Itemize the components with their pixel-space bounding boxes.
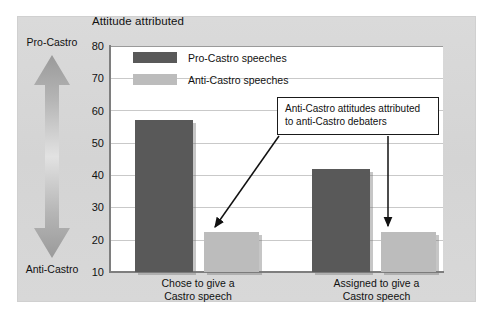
bidirectional-arrow-icon bbox=[34, 55, 70, 258]
y-tick-50: 50 bbox=[78, 137, 104, 149]
bar-fill bbox=[312, 169, 370, 272]
category-label-assigned-line1: Assigned to give a bbox=[304, 277, 449, 290]
legend-item-anti-castro: Anti-Castro speeches bbox=[133, 71, 288, 88]
y-tick-20: 20 bbox=[78, 234, 104, 246]
gridline-80 bbox=[110, 46, 443, 47]
y-tick-10: 10 bbox=[78, 266, 104, 278]
bar-fill bbox=[204, 232, 259, 272]
bar-assigned-pro-castro bbox=[312, 169, 370, 272]
bar-fill bbox=[135, 120, 193, 272]
category-label-assigned-line2: Castro speech bbox=[304, 290, 449, 303]
legend-label-pro-castro: Pro-Castro speeches bbox=[188, 52, 287, 64]
y-tick-70: 70 bbox=[78, 72, 104, 84]
chart-title: Attitude attributed bbox=[92, 15, 184, 27]
annotation-callout-line1: Anti-Castro attitudes attributed bbox=[285, 103, 431, 116]
legend-swatch-pro-castro bbox=[133, 52, 177, 63]
bar-chose-pro-castro bbox=[135, 120, 193, 272]
y-tick-80: 80 bbox=[78, 40, 104, 52]
annotation-callout-line2: to anti-Castro debaters bbox=[285, 116, 431, 129]
legend-label-anti-castro: Anti-Castro speeches bbox=[188, 74, 288, 86]
legend-item-pro-castro: Pro-Castro speeches bbox=[133, 49, 288, 66]
chart-figure: Attitude attributed Pro-Castro Anti-Cast… bbox=[0, 0, 489, 318]
category-label-chose: Chose to give a Castro speech bbox=[128, 277, 268, 303]
y-tick-60: 60 bbox=[78, 105, 104, 117]
bar-fill bbox=[381, 232, 436, 272]
legend: Pro-Castro speeches Anti-Castro speeches bbox=[133, 49, 288, 93]
category-label-chose-line1: Chose to give a bbox=[128, 277, 268, 290]
bar-chose-anti-castro bbox=[204, 232, 259, 272]
category-label-assigned: Assigned to give a Castro speech bbox=[304, 277, 449, 303]
y-tick-40: 40 bbox=[78, 169, 104, 181]
y-tick-30: 30 bbox=[78, 201, 104, 213]
legend-swatch-anti-castro bbox=[133, 74, 177, 85]
y-axis-line bbox=[109, 45, 111, 273]
bar-assigned-anti-castro bbox=[381, 232, 436, 272]
category-label-chose-line2: Castro speech bbox=[128, 290, 268, 303]
annotation-callout: Anti-Castro attitudes attributed to anti… bbox=[277, 97, 439, 135]
